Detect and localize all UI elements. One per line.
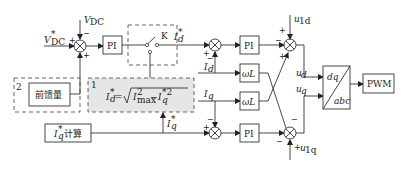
pi-q-label: PI [244,129,254,139]
svg-text:d: d [208,64,214,74]
pi-d-label: PI [244,41,254,51]
u1d-label: u 1d [294,14,311,26]
sign: − [207,115,214,124]
sign: + [83,51,90,60]
u1q-label: u 1q [300,143,317,155]
sign: − [291,115,298,124]
summer-ud [284,39,296,51]
sign: − [207,54,214,63]
id-ref-label: I * d [173,27,184,44]
svg-text:d: d [178,34,184,44]
vdc-ref-label: V * DC [44,29,65,47]
pwm-label: PWM [367,79,392,89]
vdc-fb-label: V DC [84,15,104,27]
sign: + [279,52,286,61]
svg-text:q: q [301,86,307,96]
switch-contact-left [145,43,148,46]
pi-voltage-label: PI [107,41,117,51]
omega-l-q-label: ωL [242,97,255,107]
svg-text:DC: DC [90,17,104,27]
omega-l-d-label: ωL [242,69,255,79]
svg-text:q: q [162,95,168,105]
region-2-number: 2 [16,82,22,92]
ud-label: u d [296,68,307,80]
feedforward-line [70,53,80,94]
svg-text:q: q [208,91,214,101]
svg-text:=: = [115,92,123,102]
cross-line-d [259,73,288,134]
transform-abc-label: abc [334,96,350,106]
switch-contact-bottom [148,50,151,53]
svg-text:q: q [171,121,177,131]
sign: + [279,26,286,35]
iq-ref-label: I * q [166,114,177,131]
region-1-number: 1 [91,80,97,90]
uq-line [296,96,323,133]
control-block-diagram: 2 前馈量 1 I * d = I 2 max − I *2 q V * DC … [0,0,410,169]
feedforward-label: 前馈量 [35,89,62,100]
svg-text:计算: 计算 [64,128,82,139]
sign: + [203,123,210,132]
sign: + [69,36,76,45]
sign: − [83,29,90,38]
switch-contact-right [155,43,158,46]
sign: − [275,36,282,45]
switch-blade[interactable] [148,37,155,44]
iq-fb-label: I q [203,89,214,101]
svg-text:DC: DC [51,37,65,47]
svg-text:1d: 1d [299,16,311,26]
svg-text:d: d [301,70,307,80]
svg-text:−: − [150,92,158,102]
summer-iq [209,127,221,139]
summer-id [209,39,221,51]
summer-uq [284,127,296,139]
sign: − [276,137,283,146]
svg-text:1q: 1q [305,145,317,155]
id-fb-label: I d [203,62,214,74]
transform-dq-label: dq [327,72,339,82]
switch-k-label: K [161,31,168,41]
uq-label: u q [296,84,307,96]
